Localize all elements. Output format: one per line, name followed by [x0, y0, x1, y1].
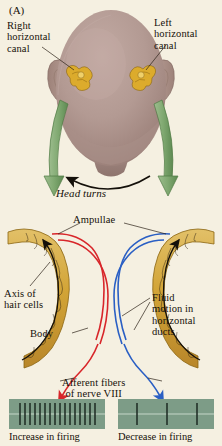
figure-panel-a: (A)	[0, 0, 222, 446]
recording-panel-increase	[9, 399, 105, 429]
recording-panel-decrease	[118, 399, 214, 429]
label-head-turns: Head turns	[56, 188, 106, 199]
label-ampullae: Ampullae	[73, 214, 115, 225]
caption-increase-in-firing: Increase in firing	[9, 431, 80, 442]
label-fluid-motion-horizontal-ducts: Fluid motion in horizontal ducts	[152, 292, 196, 338]
label-right-horizontal-canal: Right horizontal canal	[7, 20, 51, 54]
label-body: Body	[30, 328, 53, 339]
label-afferent-fibers-nerve-viii: Afferent fibers of nerve VIII	[62, 377, 125, 400]
label-axis-of-hair-cells: Axis of hair cells	[4, 288, 43, 311]
caption-decrease-in-firing: Decrease in firing	[118, 431, 192, 442]
label-left-horizontal-canal: Left horizontal canal	[154, 17, 198, 51]
